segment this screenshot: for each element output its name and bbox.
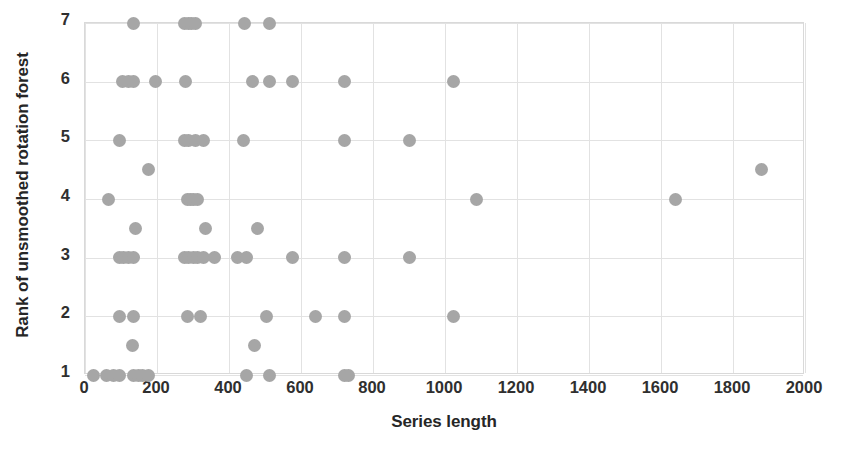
gridline-vertical bbox=[85, 23, 86, 373]
scatter-point bbox=[286, 251, 299, 264]
scatter-point bbox=[179, 75, 192, 88]
scatter-point bbox=[189, 17, 202, 30]
scatter-point bbox=[113, 134, 126, 147]
scatter-point bbox=[126, 339, 139, 352]
scatter-point bbox=[127, 17, 140, 30]
gridline-vertical bbox=[517, 23, 518, 373]
gridline-vertical bbox=[661, 23, 662, 373]
gridline-vertical bbox=[229, 23, 230, 373]
y-tick-label: 4 bbox=[44, 186, 70, 205]
scatter-point bbox=[260, 310, 273, 323]
scatter-point bbox=[208, 251, 221, 264]
x-tick-label: 1800 bbox=[692, 378, 772, 397]
scatter-point bbox=[237, 134, 250, 147]
scatter-point bbox=[113, 369, 126, 382]
scatter-point bbox=[338, 251, 351, 264]
scatter-point bbox=[309, 310, 322, 323]
x-axis-title: Series length bbox=[84, 412, 804, 432]
gridline-vertical bbox=[589, 23, 590, 373]
scatter-point bbox=[403, 251, 416, 264]
gridline-vertical bbox=[301, 23, 302, 373]
scatter-point bbox=[755, 163, 768, 176]
y-axis-title: Rank of unsmoothed rotation forest bbox=[6, 0, 40, 390]
y-tick-label: 2 bbox=[44, 303, 70, 322]
scatter-point bbox=[263, 75, 276, 88]
scatter-point bbox=[142, 369, 155, 382]
scatter-point bbox=[263, 17, 276, 30]
y-tick-label: 5 bbox=[44, 127, 70, 146]
x-tick-label: 1200 bbox=[476, 378, 556, 397]
x-tick-label: 400 bbox=[188, 378, 268, 397]
scatter-point bbox=[447, 75, 460, 88]
y-tick-label: 3 bbox=[44, 245, 70, 264]
scatter-point bbox=[246, 75, 259, 88]
scatter-point bbox=[149, 75, 162, 88]
scatter-plot-figure: Rank of unsmoothed rotation forest Serie… bbox=[0, 0, 849, 466]
scatter-point bbox=[286, 75, 299, 88]
scatter-point bbox=[87, 369, 100, 382]
x-tick-label: 2000 bbox=[764, 378, 844, 397]
scatter-point bbox=[248, 339, 261, 352]
scatter-point bbox=[263, 369, 276, 382]
scatter-point bbox=[191, 193, 204, 206]
scatter-point bbox=[338, 75, 351, 88]
scatter-point bbox=[470, 193, 483, 206]
y-tick-label: 7 bbox=[44, 10, 70, 29]
gridline-vertical bbox=[805, 23, 806, 373]
x-tick-label: 1600 bbox=[620, 378, 700, 397]
gridline-horizontal bbox=[85, 82, 803, 83]
scatter-point bbox=[181, 310, 194, 323]
scatter-point bbox=[251, 222, 264, 235]
scatter-point bbox=[669, 193, 682, 206]
gridline-vertical bbox=[733, 23, 734, 373]
scatter-point bbox=[240, 251, 253, 264]
scatter-point bbox=[194, 310, 207, 323]
scatter-point bbox=[127, 310, 140, 323]
scatter-point bbox=[197, 134, 210, 147]
scatter-point bbox=[127, 251, 140, 264]
scatter-point bbox=[240, 369, 253, 382]
scatter-point bbox=[447, 310, 460, 323]
plot-area bbox=[84, 22, 804, 374]
gridline-horizontal bbox=[85, 375, 803, 376]
x-tick-label: 1000 bbox=[404, 378, 484, 397]
scatter-point bbox=[338, 134, 351, 147]
x-tick-label: 1400 bbox=[548, 378, 628, 397]
scatter-point bbox=[403, 134, 416, 147]
scatter-point bbox=[199, 222, 212, 235]
x-tick-label: 200 bbox=[116, 378, 196, 397]
gridline-vertical bbox=[445, 23, 446, 373]
gridline-vertical bbox=[373, 23, 374, 373]
scatter-point bbox=[338, 310, 351, 323]
scatter-point bbox=[102, 193, 115, 206]
scatter-point bbox=[127, 75, 140, 88]
scatter-point bbox=[113, 310, 126, 323]
scatter-point bbox=[238, 17, 251, 30]
scatter-point bbox=[342, 369, 355, 382]
y-tick-label: 6 bbox=[44, 69, 70, 88]
scatter-point bbox=[129, 222, 142, 235]
scatter-point bbox=[142, 163, 155, 176]
